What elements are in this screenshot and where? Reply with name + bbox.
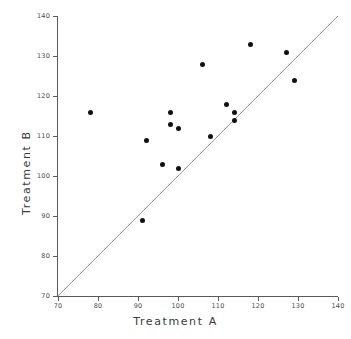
- data-point: [88, 110, 93, 115]
- data-point: [284, 50, 289, 55]
- data-point: [168, 122, 173, 127]
- y-axis-title: Treatment B: [20, 130, 33, 215]
- data-point: [200, 62, 205, 67]
- data-point: [224, 102, 229, 107]
- data-point: [140, 218, 145, 223]
- data-point: [144, 138, 149, 143]
- data-point: [232, 110, 237, 115]
- data-point: [292, 78, 297, 83]
- data-point: [168, 110, 173, 115]
- data-point: [160, 162, 165, 167]
- plot-data-area: [58, 16, 338, 296]
- data-point: [176, 166, 181, 171]
- data-point: [248, 42, 253, 47]
- scatter-plot-figure: 708090100110120130140 708090100110120130…: [0, 0, 351, 339]
- data-point: [208, 134, 213, 139]
- data-point: [232, 118, 237, 123]
- x-axis-title: Treatment A: [0, 315, 351, 328]
- data-point: [176, 126, 181, 131]
